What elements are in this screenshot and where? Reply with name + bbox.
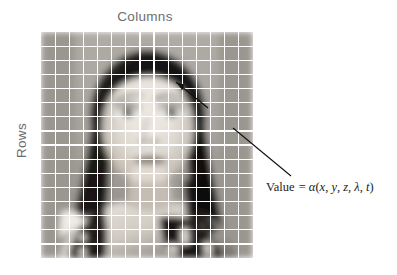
grayscale-portrait-image [41,32,253,258]
formula-sep-3: , [348,180,351,194]
sampled-image-grid [41,32,253,258]
formula-sep-2: , [337,180,340,194]
formula-lhs: Value [266,180,294,194]
rows-axis-label: Rows [14,111,29,171]
formula-sep-4: , [360,180,363,194]
columns-axis-label: Columns [0,9,290,24]
formula-sep-1: , [325,180,328,194]
formula-close-paren: ) [369,180,373,194]
figure-canvas: Columns Rows [0,0,397,275]
value-formula: Value = α(x, y, z, λ, t) [266,180,374,195]
formula-equals: = [299,180,306,194]
